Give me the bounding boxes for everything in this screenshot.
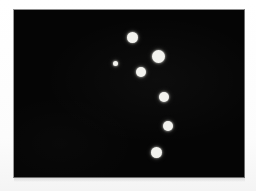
data-point-dot	[152, 50, 165, 63]
data-point-dot	[113, 61, 118, 66]
data-point-dot	[136, 67, 146, 77]
data-point-dot	[159, 92, 169, 102]
data-point-dot	[151, 147, 162, 158]
data-point-dot	[127, 32, 138, 43]
image-root	[0, 0, 256, 191]
imaging-plate	[13, 9, 245, 178]
data-point-dot	[163, 121, 173, 131]
